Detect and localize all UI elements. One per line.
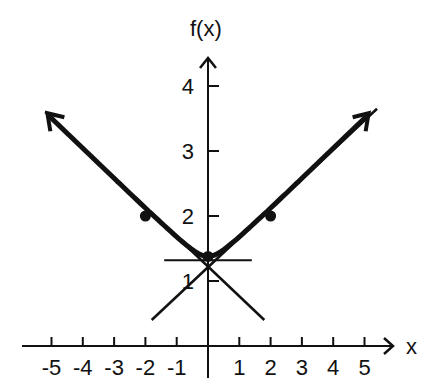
function-graph: x -5-4-3-2-112345 f(x) 1234 bbox=[0, 0, 432, 391]
y-axis: f(x) 1234 bbox=[182, 16, 222, 378]
data-point bbox=[140, 211, 151, 222]
x-tick-label: -3 bbox=[104, 355, 124, 380]
x-axis: x -5-4-3-2-112345 bbox=[22, 334, 417, 380]
x-tick-label: -5 bbox=[42, 355, 62, 380]
y-tick-label: 4 bbox=[182, 74, 194, 99]
data-point bbox=[203, 251, 214, 262]
data-point bbox=[265, 211, 276, 222]
x-tick-label: 3 bbox=[296, 355, 308, 380]
x-tick-label: 4 bbox=[327, 355, 339, 380]
x-tick-label: -1 bbox=[167, 355, 187, 380]
y-tick-label: 2 bbox=[182, 204, 194, 229]
x-tick-label: -2 bbox=[136, 355, 156, 380]
x-tick-label: -4 bbox=[73, 355, 93, 380]
x-ticks: -5-4-3-2-112345 bbox=[42, 337, 371, 380]
annotations bbox=[45, 109, 377, 320]
x-tick-label: 2 bbox=[264, 355, 276, 380]
x-tick-label: 1 bbox=[233, 355, 245, 380]
x-tick-label: 5 bbox=[358, 355, 370, 380]
x-axis-label: x bbox=[406, 334, 417, 359]
y-axis-label: f(x) bbox=[190, 16, 222, 41]
y-tick-label: 3 bbox=[182, 139, 194, 164]
